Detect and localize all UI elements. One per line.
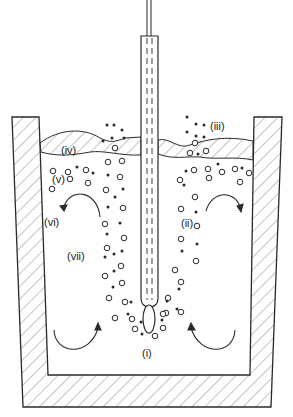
label-iii: (iii) <box>210 121 225 132</box>
lance <box>141 0 158 307</box>
ladle-diagram: (i) (ii) (iii) (iv) (v) (vi) (vii) <box>0 0 293 417</box>
label-i: (i) <box>142 348 152 359</box>
label-iv: (iv) <box>61 145 76 156</box>
label-v: (v) <box>52 174 65 185</box>
tip-gas-bubble <box>143 305 155 333</box>
label-ii: (ii) <box>181 218 193 229</box>
label-vii: (vii) <box>67 251 85 262</box>
label-vi: (vi) <box>44 217 59 228</box>
